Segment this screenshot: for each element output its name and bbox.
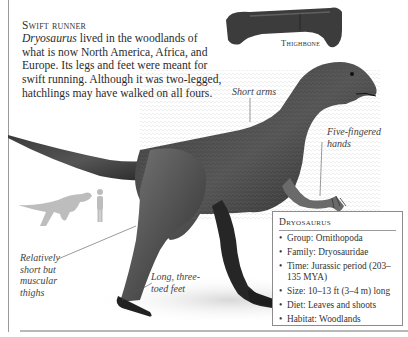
genus-name: Dryosaurus (22, 32, 77, 45)
intro-paragraph: Dryosaurus lived in the woodlands of wha… (22, 32, 222, 101)
caption-line: short but (20, 264, 60, 276)
fact-item: Size: 10–13 ft (3–4 m) long (279, 286, 398, 297)
fact-item: Diet: Leaves and shoots (279, 300, 398, 311)
section-heading: Swift runner (22, 19, 222, 32)
fact-item: Time: Jurassic period (203–135 MYA) (279, 261, 398, 283)
caption-line: hands (327, 138, 381, 150)
fact-box: Dryosaurus Group: Ornithopoda Family: Dr… (272, 211, 403, 326)
size-comparison-human-silhouette (97, 189, 103, 222)
caption-thighs: Relatively short but muscular thighs (20, 252, 60, 298)
caption-line: muscular (20, 275, 60, 287)
caption-line: toed feet (151, 283, 200, 295)
fact-item: Habitat: Woodlands (279, 314, 398, 325)
caption-five-fingered-hands: Five-fingered hands (327, 126, 381, 149)
caption-line: Relatively (20, 252, 60, 264)
fact-item: Group: Ornithopoda (279, 233, 398, 244)
thighbone-label: Thighbone (281, 38, 320, 48)
dinosaur-eye (350, 72, 354, 76)
caption-line: Five-fingered (327, 126, 381, 138)
leader-line-thighs (58, 226, 136, 259)
caption-feet: Long, three- toed feet (151, 271, 200, 294)
fact-box-title: Dryosaurus (279, 217, 396, 231)
caption-line: Long, three- (151, 271, 200, 283)
caption-line: thighs (20, 287, 60, 299)
size-comparison-dinosaur-silhouette (18, 192, 92, 226)
fact-list: Group: Ornithopoda Family: Dryosauridae … (273, 233, 402, 325)
intro-text-block: Swift runner Dryosaurus lived in the woo… (22, 19, 222, 101)
caption-short-arms: Short arms (232, 86, 276, 98)
fact-item: Family: Dryosauridae (279, 247, 398, 258)
